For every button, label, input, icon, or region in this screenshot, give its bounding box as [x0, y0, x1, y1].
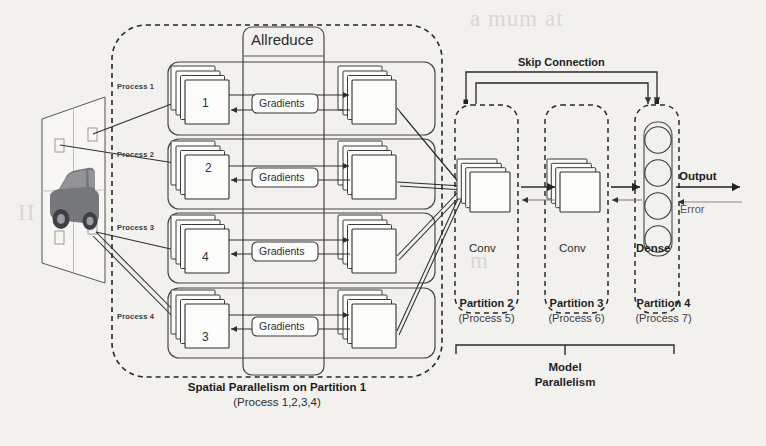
partition-3-box	[545, 105, 608, 313]
tile-number-1: 1	[202, 96, 209, 110]
model-parallelism-label-line2: Parallelism	[505, 375, 625, 389]
model-parallelism-label-line1: Model	[505, 360, 625, 374]
spatial-parallelism-caption: Spatial Parallelism on Partition 1	[152, 381, 402, 393]
partition-4-process: (Process 7)	[618, 312, 709, 324]
tile-number-3: 4	[202, 250, 209, 264]
partition-3-name: Partition 3	[531, 297, 622, 309]
partition-2-type-label: Conv	[469, 242, 496, 254]
partition-2-box	[455, 105, 518, 313]
partition-2-process: (Process 5)	[441, 312, 532, 324]
model-parallelism-bracket	[456, 345, 674, 355]
process-2-label: Process 2	[117, 150, 154, 159]
spatial-parallelism-processes: (Process 1,2,3,4)	[152, 396, 402, 408]
figure-canvas: a mum at II m	[0, 0, 766, 446]
partition-4-name: Partition 4	[618, 297, 709, 309]
partition-2-name: Partition 2	[441, 297, 532, 309]
partition-4-box	[635, 105, 679, 313]
allreduce-label: Allreduce	[251, 31, 314, 48]
output-error-arrows	[676, 187, 742, 202]
gradients-label-4: Gradients	[259, 320, 305, 332]
partition-4-type-label: Dense	[636, 242, 671, 254]
skip-connection-paths	[466, 72, 657, 104]
tile-number-4: 3	[202, 330, 209, 344]
gradients-label-2: Gradients	[259, 171, 305, 183]
output-label: Output	[679, 170, 717, 182]
partition-3-process: (Process 6)	[531, 312, 622, 324]
gradients-label-3: Gradients	[259, 245, 305, 257]
gradients-label-1: Gradients	[259, 97, 305, 109]
process-1-label: Process 1	[117, 82, 154, 91]
process-3-label: Process 3	[117, 223, 154, 232]
input-image-plane	[42, 97, 105, 283]
diagram-vectors	[0, 0, 766, 446]
tile-number-2: 2	[205, 161, 212, 175]
process-4-label: Process 4	[117, 312, 154, 321]
partition-3-type-label: Conv	[559, 242, 586, 254]
error-label: Error	[680, 203, 704, 215]
skip-connection-label: Skip Connection	[518, 56, 605, 68]
